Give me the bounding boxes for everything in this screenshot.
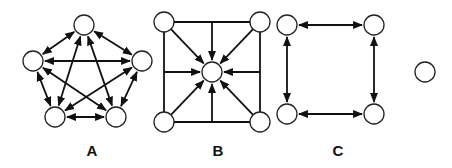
node-circle <box>132 51 152 71</box>
node-circle <box>250 112 270 132</box>
link-arrow <box>121 72 137 106</box>
node-circle <box>202 62 222 82</box>
inward-arrow <box>220 29 253 63</box>
link-arrow <box>43 32 74 54</box>
link-arrow <box>88 36 112 105</box>
node-circle <box>250 12 270 32</box>
node-circle <box>277 15 297 35</box>
link-arrow <box>59 36 81 105</box>
node-circle <box>106 107 126 127</box>
panel-c-label: C <box>333 142 344 159</box>
network-diagram: A B C <box>0 0 452 168</box>
node-circle <box>154 112 174 132</box>
link-arrow <box>94 31 132 54</box>
node-circle <box>23 51 43 71</box>
node-circle <box>154 12 174 32</box>
panel-a-fully-connected <box>23 15 152 127</box>
node-circle <box>277 104 297 124</box>
panel-a-label: A <box>87 142 98 159</box>
panel-b-label: B <box>213 142 224 159</box>
panel-c-ring <box>277 15 384 124</box>
isolated-node-group <box>415 62 435 82</box>
inward-arrow <box>220 81 253 115</box>
node-circle <box>45 107 65 127</box>
node-circle <box>74 15 94 35</box>
link-arrow <box>37 72 50 106</box>
node-circle <box>364 15 384 35</box>
inward-arrow <box>171 29 204 63</box>
node-circle <box>415 62 435 82</box>
inward-arrow <box>171 81 204 115</box>
node-circle <box>364 104 384 124</box>
panel-b-centralized <box>154 12 270 132</box>
